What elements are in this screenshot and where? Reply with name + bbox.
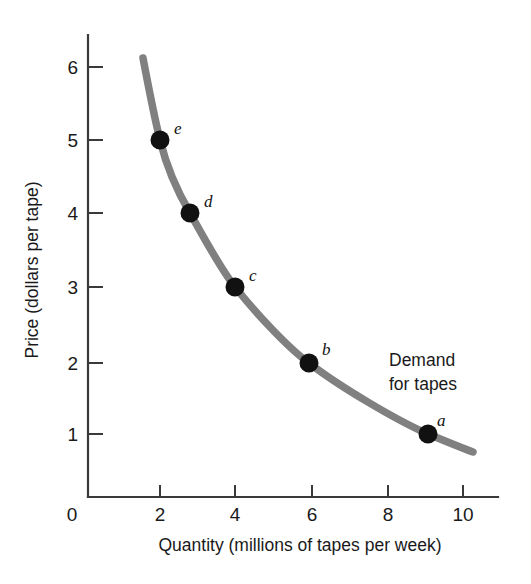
curve-annotation-line1: Demand [389, 350, 455, 370]
data-point-label-e: e [174, 119, 182, 138]
x-tick-label-4: 4 [230, 504, 241, 525]
y-tick-label-5: 5 [67, 130, 78, 151]
data-point-label-c: c [249, 266, 257, 285]
x-tick-label-8: 8 [383, 504, 394, 525]
y-tick-label-6: 6 [67, 57, 78, 78]
y-axis-ticks [88, 67, 103, 434]
curve-annotation: Demand for tapes [389, 350, 457, 394]
data-points-group [151, 131, 438, 444]
data-point-label-b: b [322, 340, 331, 359]
data-point-a[interactable] [419, 425, 438, 444]
curve-annotation-line2: for tapes [389, 374, 457, 394]
y-tick-label-2: 2 [67, 353, 78, 374]
x-axis-ticks [160, 485, 463, 497]
data-point-label-a: a [437, 411, 446, 430]
demand-curve-figure: 6 5 4 3 2 1 2 4 6 8 10 0 [0, 0, 531, 584]
y-axis-tick-labels: 6 5 4 3 2 1 [67, 57, 78, 445]
origin-label: 0 [67, 504, 78, 525]
x-tick-label-10: 10 [452, 504, 473, 525]
y-axis-title: Price (dollars per tape) [22, 181, 42, 358]
data-point-b[interactable] [300, 354, 319, 373]
x-axis-tick-labels: 2 4 6 8 10 [155, 504, 474, 525]
x-axis-title: Quantity (millions of tapes per week) [158, 535, 441, 555]
chart-canvas: 6 5 4 3 2 1 2 4 6 8 10 0 [0, 0, 531, 584]
data-point-e[interactable] [151, 131, 170, 150]
data-point-label-d: d [204, 192, 213, 211]
data-point-d[interactable] [181, 204, 200, 223]
y-tick-label-1: 1 [67, 424, 78, 445]
y-tick-label-3: 3 [67, 277, 78, 298]
data-point-c[interactable] [226, 278, 245, 297]
x-tick-label-2: 2 [155, 504, 166, 525]
y-tick-label-4: 4 [67, 203, 78, 224]
x-tick-label-6: 6 [307, 504, 318, 525]
